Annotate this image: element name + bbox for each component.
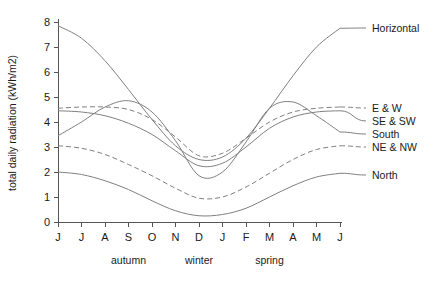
y-tick-label: 7: [44, 41, 50, 53]
series-curve: [58, 101, 340, 179]
x-axis-tick-labels: JJASONDJFMAMJ: [55, 231, 343, 243]
x-tick-label: M: [265, 231, 274, 243]
y-tick-label: 5: [44, 91, 50, 103]
y-axis-title: total daily radiation (kWh/m2): [6, 55, 18, 191]
season-label: autumn: [111, 254, 146, 266]
y-axis-tick-labels: 012345678: [44, 16, 50, 228]
x-tick-label: F: [243, 231, 250, 243]
x-tick-label: O: [148, 231, 157, 243]
series-curve: [58, 146, 340, 199]
season-label: spring: [255, 254, 284, 266]
series-label: South: [372, 128, 400, 140]
series-label: E & W: [372, 102, 402, 114]
x-tick-label: J: [337, 231, 343, 243]
x-tick-label: M: [312, 231, 321, 243]
x-tick-label: S: [125, 231, 132, 243]
series-leader-line: [340, 146, 366, 147]
x-tick-label: N: [172, 231, 180, 243]
x-tick-label: J: [220, 231, 226, 243]
y-tick-label: 4: [44, 116, 50, 128]
y-tick-label: 2: [44, 166, 50, 178]
y-tick-label: 1: [44, 191, 50, 203]
series-curve: [58, 26, 340, 161]
x-tick-label: D: [195, 231, 203, 243]
series-label: Horizontal: [372, 22, 419, 34]
x-axis-group: JJASONDJFMAMJ autumnwinterspring: [55, 222, 343, 266]
x-tick-label: A: [101, 231, 109, 243]
y-tick-label: 0: [44, 216, 50, 228]
series-curves: [58, 26, 340, 216]
series-curve: [58, 172, 340, 216]
y-axis-group: 012345678 total daily radiation (kWh/m2): [6, 16, 58, 228]
chart-container: 012345678 total daily radiation (kWh/m2)…: [0, 0, 445, 283]
y-tick-label: 8: [44, 16, 50, 28]
series-leader-line: [340, 107, 366, 108]
season-labels: autumnwinterspring: [111, 254, 284, 266]
series-label: North: [372, 169, 398, 181]
series-label: SE & SW: [372, 115, 416, 127]
y-tick-label: 3: [44, 141, 50, 153]
series-leader-line: [340, 111, 366, 121]
x-tick-label: J: [55, 231, 61, 243]
x-axis-ticks: [58, 222, 340, 227]
series-labels: HorizontalE & WSE & SWSouthNE & NWNorth: [372, 22, 419, 181]
y-tick-label: 6: [44, 66, 50, 78]
radiation-line-chart: 012345678 total daily radiation (kWh/m2)…: [0, 0, 445, 283]
series-label: NE & NW: [372, 141, 417, 153]
y-axis-ticks: [54, 22, 58, 222]
series-leader-line: [340, 173, 366, 175]
x-tick-label: J: [79, 231, 85, 243]
series-curve: [58, 111, 340, 167]
series-leader-line: [340, 132, 366, 134]
season-label: winter: [184, 254, 214, 266]
x-tick-label: A: [289, 231, 297, 243]
series-leader-lines: [340, 28, 366, 175]
